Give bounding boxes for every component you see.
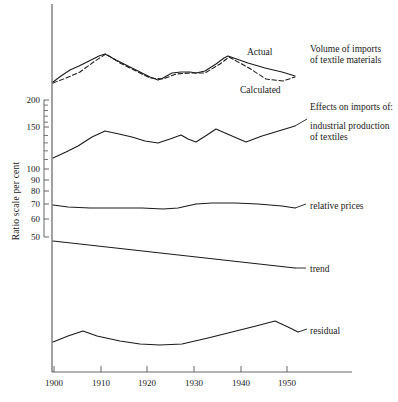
y-tick-label: 60 (6, 214, 40, 224)
x-tick-marks (54, 366, 287, 372)
x-tick-label: 1900 (45, 378, 63, 388)
x-tick-label: 1950 (278, 378, 296, 388)
x-tick-label: 1930 (185, 378, 203, 388)
series-line (53, 321, 298, 345)
volume-heading-2: of textile materials (310, 55, 381, 67)
actual-label: Actual (247, 47, 272, 59)
effects-heading: Effects on imports of: (310, 102, 393, 114)
y-tick-label: 100 (6, 164, 40, 174)
label-leader-lines (295, 119, 307, 332)
series-line (53, 203, 295, 209)
industrial-label-2: of textiles (310, 132, 348, 144)
industrial-label: industrial production (310, 121, 389, 133)
y-tick-label: 90 (6, 175, 40, 185)
series-line (53, 126, 295, 158)
y-tick-label: 150 (6, 122, 40, 132)
x-tick-label: 1910 (92, 378, 110, 388)
y-tick-label: 80 (6, 186, 40, 196)
leader-residual (298, 329, 307, 332)
leader-industrial (295, 119, 307, 126)
y-tick-label: 70 (6, 199, 40, 209)
leader-relative-prices (295, 204, 306, 208)
x-tick-label: 1940 (232, 378, 250, 388)
trend-label: trend (310, 264, 330, 276)
volume-heading: Volume of imports (310, 44, 381, 56)
chart-page: Ratio scale per cent 2001501009080706050… (0, 0, 398, 402)
data-series-group (53, 54, 298, 345)
axis-lines (44, 4, 352, 372)
y-tick-label: 200 (6, 95, 40, 105)
series-line (53, 241, 295, 268)
residual-label: residual (310, 326, 340, 338)
calculated-label: Calculated (240, 85, 281, 97)
x-tick-label: 1920 (138, 378, 156, 388)
relative-prices-label: relative prices (310, 201, 364, 213)
y-tick-label: 50 (6, 232, 40, 242)
y-tick-marks (44, 100, 49, 237)
